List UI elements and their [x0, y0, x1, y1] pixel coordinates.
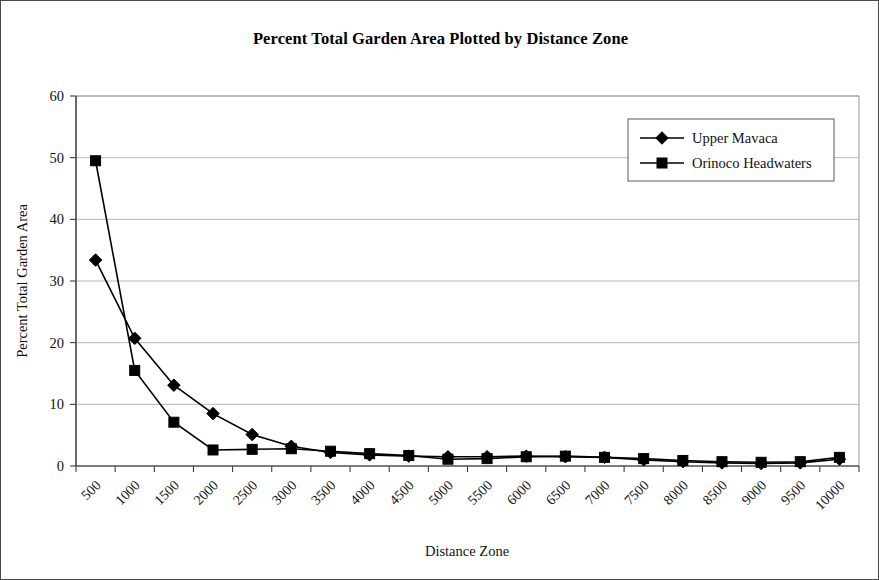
x-axis-tick-label: 1000 — [112, 478, 142, 508]
data-point-square-marker — [325, 446, 335, 456]
y-axis-tick-label: 10 — [50, 396, 65, 412]
y-axis-tick-label: 50 — [50, 150, 65, 166]
data-point-square-marker — [639, 454, 649, 464]
data-point-square-marker — [169, 417, 179, 427]
data-point-diamond-marker — [89, 254, 102, 266]
y-axis-tick-labels: 0102030405060 — [50, 88, 65, 474]
data-point-diamond-marker — [246, 428, 258, 441]
series-line — [96, 260, 840, 464]
series-1 — [89, 254, 845, 470]
chart-legend[interactable]: Upper MavacaOrinoco Headwaters — [628, 119, 834, 181]
data-point-square-marker — [795, 457, 805, 467]
legend-box — [628, 119, 834, 181]
y-axis-tick-label: 20 — [50, 335, 65, 351]
x-axis-tick-label: 6500 — [543, 478, 573, 508]
x-axis-title: Distance Zone — [425, 543, 509, 559]
x-axis-tick-label: 5500 — [465, 478, 495, 508]
data-series — [89, 156, 845, 470]
x-axis-tick-label: 4500 — [386, 478, 416, 508]
x-axis-tick-label: 9500 — [778, 478, 808, 508]
x-axis-tick-label: 9000 — [739, 478, 769, 508]
x-axis-tick-label: 2000 — [191, 478, 221, 508]
data-point-square-marker — [521, 452, 531, 462]
x-axis-tick-label: 500 — [78, 478, 103, 503]
x-axis-tick-label: 8500 — [700, 478, 730, 508]
data-point-square-marker — [443, 454, 453, 464]
series-line — [96, 161, 840, 463]
data-point-square-marker — [560, 451, 570, 461]
data-point-square-marker — [91, 156, 101, 166]
x-axis-tick-label: 1500 — [152, 478, 182, 508]
y-axis-title: Percent Total Garden Area — [14, 204, 30, 358]
x-axis-tick-label: 3000 — [269, 478, 299, 508]
legend-item-label[interactable]: Orinoco Headwaters — [692, 155, 812, 171]
y-axis-tick-label: 40 — [50, 211, 65, 227]
data-point-square-marker — [756, 457, 766, 467]
x-axis-tick-label: 2500 — [230, 478, 260, 508]
data-point-square-marker — [482, 454, 492, 464]
series-2 — [91, 156, 845, 468]
data-point-diamond-marker — [207, 407, 220, 420]
y-axis-tick-label: 30 — [50, 273, 65, 289]
data-point-square-marker — [365, 449, 375, 459]
data-point-square-marker — [286, 444, 296, 454]
chart-figure: Percent Total Garden Area Plotted by Dis… — [0, 0, 879, 580]
y-axis-tick-label: 60 — [50, 88, 65, 104]
chart-plot-area: 0102030405060 50010001500200025003000350… — [1, 1, 879, 580]
data-point-square-marker — [247, 444, 257, 454]
data-point-square-marker — [834, 452, 844, 462]
x-axis-tick-label: 5000 — [426, 478, 456, 508]
data-point-square-marker — [600, 452, 610, 462]
data-point-square-marker — [208, 445, 218, 455]
x-axis-tick-label: 4000 — [347, 478, 377, 508]
x-axis-tick-label: 7000 — [582, 478, 612, 508]
x-axis-tick-label: 3500 — [308, 478, 338, 508]
data-point-square-marker — [657, 158, 667, 168]
x-axis-tick-label: 10000 — [812, 478, 847, 513]
data-point-square-marker — [404, 451, 414, 461]
data-point-square-marker — [717, 457, 727, 467]
x-axis-tick-label: 8000 — [661, 478, 691, 508]
x-axis-tick-label: 6000 — [504, 478, 534, 508]
x-axis-tick-label: 7500 — [621, 478, 651, 508]
x-axis-tickmarks — [76, 466, 859, 472]
y-axis-tick-label: 0 — [57, 458, 64, 474]
data-point-square-marker — [130, 365, 140, 375]
x-axis-tick-labels: 5001000150020002500300035004000450050005… — [78, 478, 847, 513]
data-point-square-marker — [678, 455, 688, 465]
legend-item-label[interactable]: Upper Mavaca — [692, 130, 778, 146]
